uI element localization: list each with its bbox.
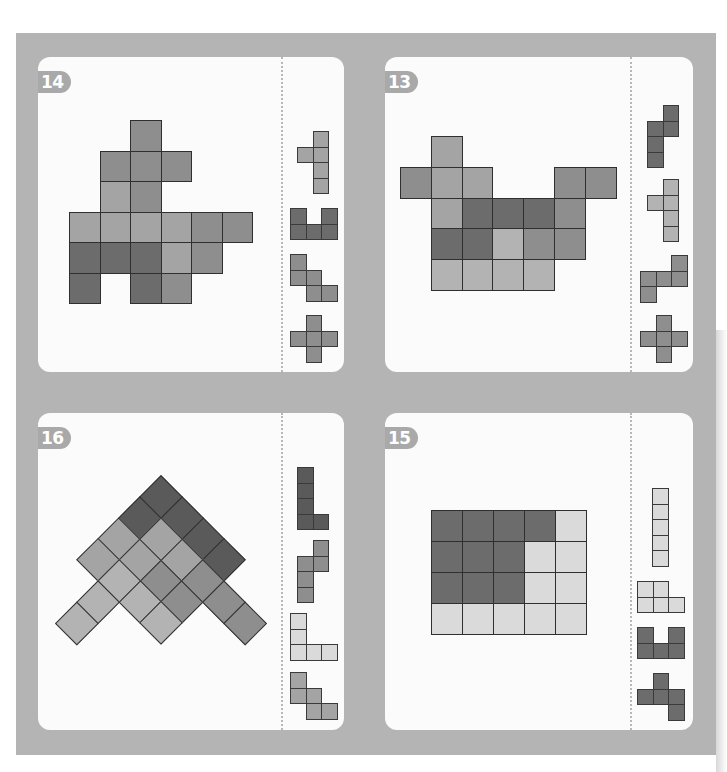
grid-cell xyxy=(554,167,586,199)
piece-cell xyxy=(297,467,314,484)
puzzle-card-16: 16 xyxy=(38,413,344,730)
piece-cell xyxy=(656,315,673,332)
piece-cell xyxy=(668,689,685,706)
piece-cell xyxy=(297,498,314,515)
grid-cell xyxy=(191,212,223,244)
piece-cell xyxy=(290,688,307,705)
piece-cell xyxy=(656,271,673,288)
piece-cell xyxy=(637,627,654,644)
grid-cell xyxy=(431,510,463,542)
piece-cell xyxy=(653,689,670,706)
grid-cell xyxy=(100,242,132,274)
grid-cell xyxy=(524,541,556,573)
piece-cell xyxy=(297,587,314,604)
piece-cell xyxy=(652,504,669,521)
piece-cell xyxy=(640,286,657,303)
grid-cell xyxy=(554,198,586,230)
grid-cell xyxy=(555,572,587,604)
piece-cell xyxy=(313,178,330,195)
piece-cell xyxy=(653,597,670,614)
grid-cell xyxy=(492,228,524,260)
piece-cell xyxy=(321,644,338,661)
piece-cell xyxy=(652,488,669,505)
grid-cell xyxy=(130,181,162,213)
piece-cell xyxy=(297,571,314,588)
piece-cell xyxy=(668,627,685,644)
grid-cell xyxy=(555,541,587,573)
puzzle-number-badge: 16 xyxy=(38,427,71,449)
grid-cell xyxy=(130,212,162,244)
piece-cell xyxy=(306,703,323,720)
grid-cell xyxy=(161,242,193,274)
piece-cell xyxy=(313,147,330,164)
piece-cell xyxy=(290,644,307,661)
grid-cell xyxy=(222,212,254,244)
grid-cell xyxy=(431,167,463,199)
puzzle-card-13: 13 xyxy=(385,57,693,372)
piece-cell xyxy=(647,152,664,169)
grid-cell xyxy=(69,273,101,305)
grid-cell xyxy=(431,136,463,168)
piece-cell xyxy=(290,270,307,287)
piece-cell xyxy=(297,514,314,531)
grid-cell xyxy=(524,603,556,635)
piece-cell xyxy=(290,254,307,271)
grid-cell xyxy=(462,541,494,573)
grid-cell xyxy=(524,572,556,604)
piece-cell xyxy=(668,704,685,721)
piece-cell xyxy=(306,270,323,287)
grid-cell xyxy=(493,572,525,604)
piece-cell xyxy=(313,540,330,557)
piece-cell xyxy=(313,162,330,179)
piece-cell xyxy=(306,285,323,302)
piece-cell xyxy=(671,255,688,272)
grid-cell xyxy=(492,198,524,230)
grid-cell xyxy=(130,151,162,183)
puzzle-number-badge: 14 xyxy=(38,71,71,93)
piece-cell xyxy=(321,703,338,720)
grid-cell xyxy=(431,198,463,230)
piece-cell xyxy=(656,346,673,363)
grid-cell xyxy=(100,181,132,213)
grid-cell xyxy=(462,259,494,291)
puzzle-card-14: 14 xyxy=(38,57,344,372)
piece-cell xyxy=(637,597,654,614)
piece-cell xyxy=(653,643,670,660)
dotted-divider xyxy=(281,57,283,372)
piece-cell xyxy=(306,315,323,332)
grid-cell xyxy=(585,167,617,199)
piece-cell xyxy=(640,331,657,348)
grid-cell xyxy=(431,572,463,604)
piece-cell xyxy=(640,271,657,288)
grid-cell xyxy=(493,510,525,542)
piece-cell xyxy=(290,613,307,630)
piece-cell xyxy=(668,643,685,660)
piece-cell xyxy=(321,224,338,241)
grid-cell xyxy=(431,228,463,260)
piece-cell xyxy=(637,689,654,706)
piece-cell xyxy=(306,331,323,348)
piece-cell xyxy=(653,673,670,690)
grid-cell xyxy=(462,603,494,635)
grid-cell xyxy=(523,228,555,260)
piece-cell xyxy=(321,285,338,302)
grid-cell xyxy=(130,242,162,274)
piece-cell xyxy=(321,208,338,225)
puzzle-number-badge: 13 xyxy=(385,71,418,93)
grid-cell xyxy=(161,212,193,244)
grid-cell xyxy=(100,212,132,244)
puzzle-card-15: 15 xyxy=(385,413,693,730)
grid-cell xyxy=(69,242,101,274)
dotted-divider xyxy=(630,413,632,730)
piece-cell xyxy=(671,331,688,348)
piece-cell xyxy=(313,514,330,531)
piece-cell xyxy=(306,644,323,661)
piece-cell xyxy=(671,271,688,288)
piece-cell xyxy=(663,105,680,122)
piece-cell xyxy=(306,688,323,705)
piece-cell xyxy=(652,519,669,536)
piece-cell xyxy=(647,121,664,138)
piece-cell xyxy=(663,121,680,138)
grid-cell xyxy=(130,273,162,305)
grid-cell xyxy=(431,259,463,291)
